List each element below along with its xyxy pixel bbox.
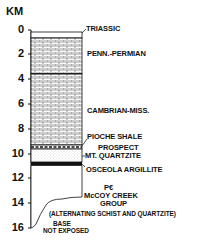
depth-axis	[28, 30, 31, 228]
tick-label: 14	[6, 197, 24, 208]
unit-triassic	[31, 32, 82, 38]
tick-label: 6	[10, 98, 24, 109]
label-not-exposed: NOT EXPOSED	[43, 227, 89, 235]
label-triassic: TRIASSIC	[86, 25, 120, 33]
unit-prospect-mt-quartzite	[31, 149, 82, 162]
label-cambrian-miss: CAMBRIAN-MISS.	[87, 107, 149, 115]
label-penn-permian: PENN.-PERMIAN	[87, 50, 146, 58]
axis-title: KM	[6, 5, 23, 17]
tick-label: 10	[6, 148, 24, 159]
unit-osceola-argillite	[31, 162, 82, 166]
tick-label: 4	[10, 73, 24, 84]
stratigraphic-column-diagram: KM 0 2 4 6 8 10 12 14 16 TRIASSIC PENN.-…	[0, 0, 202, 243]
unit-penn-permian	[31, 38, 82, 74]
unit-mccoy-creek	[31, 166, 82, 229]
unit-pioche-shale	[31, 145, 82, 149]
label-osceola-argillite: OSCEOLA ARGILLITE	[86, 166, 163, 174]
label-mt-quartzite: MT. QUARTZITE	[85, 152, 141, 160]
tick-label: 2	[10, 48, 24, 59]
label-group: GROUP	[100, 200, 127, 208]
label-pioche-shale: PIOCHE SHALE	[87, 133, 142, 141]
tick-label: 8	[10, 123, 24, 134]
unit-cambrian-miss	[31, 74, 82, 145]
tick-label: 16	[6, 222, 24, 233]
tick-label: 0	[10, 24, 24, 35]
tick-label: 12	[6, 172, 24, 183]
label-mccoy-note: (ALTERNATING SCHIST AND QUARTZITE)	[49, 210, 176, 218]
